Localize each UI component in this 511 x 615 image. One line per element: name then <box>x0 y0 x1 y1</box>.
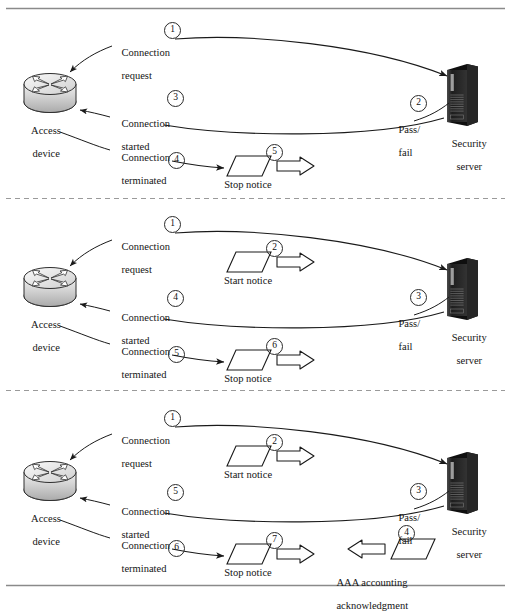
txt: Connection <box>122 435 170 446</box>
step-number-1-3: 3 <box>167 90 184 107</box>
txt: device <box>33 536 60 547</box>
txt: Security <box>452 332 487 343</box>
leader-request-1 <box>70 46 112 72</box>
block-arrow-start-3 <box>277 447 314 465</box>
access-device-label-line2: device <box>33 148 60 159</box>
step-label-connection-request-3: Connection request <box>111 423 170 481</box>
txt: Connection <box>122 118 170 129</box>
step-label-connection-request-1: Connection request <box>111 35 170 93</box>
step-number-3-5: 5 <box>167 484 184 501</box>
txt: request <box>122 70 152 81</box>
txt: terminated <box>122 175 167 186</box>
step-label-connection-terminated-1: Connection terminated <box>111 140 170 198</box>
txt: fail <box>399 147 413 158</box>
step-number-1-2: 2 <box>410 95 427 112</box>
txt: Connection <box>122 47 170 58</box>
security-server-label-line2: server <box>456 161 482 172</box>
step-number-3-2: 2 <box>266 434 283 451</box>
node-label-security-server-3: Security server <box>431 514 497 572</box>
block-arrow-start-2 <box>277 253 314 271</box>
txt: server <box>456 355 482 366</box>
server-tower-icon <box>447 64 478 126</box>
txt: fail <box>399 341 413 352</box>
router-icon <box>24 268 76 307</box>
security-server-label-line1: Security <box>452 138 487 149</box>
flow-arrow-request-1 <box>175 38 447 76</box>
txt: terminated <box>122 563 167 574</box>
step-number-2-1: 1 <box>164 216 181 233</box>
leader-started-2 <box>80 304 110 311</box>
step-number-3-3: 3 <box>410 483 427 500</box>
start-notice-shape-2 <box>227 252 271 272</box>
step-number-2-4: 4 <box>167 290 184 307</box>
stop-notice-shape-1 <box>227 156 271 176</box>
node-label-access-device-3: Access device <box>12 501 70 559</box>
block-arrow-stop-2 <box>277 351 314 369</box>
step-label-connection-terminated-3: Connection terminated <box>111 528 170 586</box>
txt: request <box>122 458 152 469</box>
node-label-security-server-1: Security server <box>431 126 497 184</box>
txt: request <box>122 264 152 275</box>
step-label-pass-fail-1: Pass/ fail <box>388 112 420 170</box>
start-notice-shape-3 <box>227 446 271 466</box>
txt: device <box>33 342 60 353</box>
leader-request-2 <box>70 240 112 266</box>
step-number-1-5: 5 <box>266 144 283 161</box>
txt: Security <box>452 526 487 537</box>
node-label-access-device-1: Access device <box>12 113 70 171</box>
step-number-1-1: 1 <box>164 22 181 39</box>
leader-started-1 <box>80 110 110 117</box>
router-icon <box>24 462 76 501</box>
step-label-stop-notice-3: Stop notice <box>213 567 283 579</box>
txt: acknowledgment <box>336 600 408 611</box>
txt: Connection <box>122 241 170 252</box>
step-number-1-4: 4 <box>168 152 185 169</box>
txt: Connection <box>122 346 170 357</box>
step-number-2-2: 2 <box>266 240 283 257</box>
txt: Pass/ <box>399 124 421 135</box>
txt: Pass/ <box>399 512 421 523</box>
step-number-3-7: 7 <box>266 532 283 549</box>
txt: Connection <box>122 506 170 517</box>
txt: Connection <box>122 152 170 163</box>
step-number-3-6: 6 <box>168 540 185 557</box>
router-icon <box>24 74 76 113</box>
step-number-2-3: 3 <box>410 289 427 306</box>
step-label-connection-terminated-2: Connection terminated <box>111 334 170 392</box>
server-tower-icon <box>447 452 478 514</box>
step-label-stop-notice-1: Stop notice <box>213 179 283 191</box>
txt: AAA accounting <box>337 577 408 588</box>
step-label-connection-request-2: Connection request <box>111 229 170 287</box>
leader-started-3 <box>80 498 110 505</box>
txt: Connection <box>122 312 170 323</box>
step-label-start-notice-2: Start notice <box>211 275 285 287</box>
access-device-label-line1: Access <box>31 125 61 136</box>
block-arrow-ack-3 <box>348 540 385 558</box>
txt: Access <box>31 513 61 524</box>
txt: terminated <box>122 369 167 380</box>
stop-notice-shape-2 <box>227 350 271 370</box>
server-tower-icon <box>447 258 478 320</box>
block-arrow-stop-3 <box>277 545 314 563</box>
stop-notice-shape-3 <box>227 544 271 564</box>
block-arrow-1 <box>277 157 314 175</box>
step-number-2-6: 6 <box>266 338 283 355</box>
txt: server <box>456 549 482 560</box>
step-number-2-5: 5 <box>168 346 185 363</box>
step-label-aaa-acknowledgment-3: AAA accounting acknowledgment <box>308 565 426 615</box>
txt: Pass/ <box>399 318 421 329</box>
step-label-pass-fail-2: Pass/ fail <box>388 306 420 364</box>
leader-request-3 <box>70 434 112 460</box>
step-label-stop-notice-2: Stop notice <box>213 373 283 385</box>
node-label-access-device-2: Access device <box>12 307 70 365</box>
txt: Connection <box>122 540 170 551</box>
step-label-start-notice-3: Start notice <box>211 469 285 481</box>
step-number-3-1: 1 <box>164 410 181 427</box>
step-number-3-4: 4 <box>398 525 415 542</box>
txt: Access <box>31 319 61 330</box>
node-label-security-server-2: Security server <box>431 320 497 378</box>
